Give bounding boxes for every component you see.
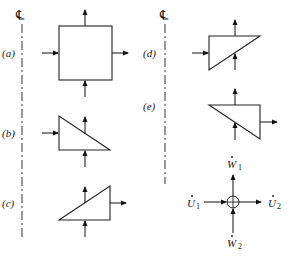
- panel-c: (c): [2, 186, 126, 237]
- centerline-symbol-right: ℄: [159, 7, 169, 22]
- svg-text:U: U: [268, 197, 277, 209]
- panel-d-label: (d): [143, 47, 156, 60]
- panel-b: (b): [2, 116, 110, 167]
- u1-label: U 1: [187, 195, 200, 211]
- square-cell: [59, 26, 112, 80]
- svg-text:2: 2: [238, 242, 242, 251]
- left-centerline: ℄: [15, 7, 25, 238]
- panel-c-label: (c): [2, 197, 15, 210]
- panel-e-label: (e): [143, 100, 156, 113]
- panel-d: (d): [143, 20, 260, 70]
- panel-a: (a): [2, 10, 128, 97]
- svg-text:1: 1: [238, 163, 242, 172]
- w1-label: W 1: [227, 156, 242, 172]
- right-centerline: ℄: [159, 7, 169, 184]
- svg-text:W: W: [227, 237, 237, 249]
- control-volume-diagram: ℄ ℄ (a) (b) (c) (d) (: [0, 0, 295, 260]
- svg-text:1: 1: [196, 202, 200, 211]
- svg-text:W: W: [227, 158, 237, 170]
- svg-text:U: U: [187, 197, 196, 209]
- flux-legend: W 1 W 2 U 1 U 2: [187, 156, 281, 251]
- w2-label: W 2: [227, 235, 242, 251]
- panel-b-label: (b): [2, 127, 15, 140]
- panel-a-label: (a): [2, 47, 15, 60]
- centerline-symbol-left: ℄: [15, 7, 25, 22]
- panel-e: (e): [143, 89, 277, 140]
- svg-text:2: 2: [277, 202, 281, 211]
- u2-label: U 2: [268, 195, 281, 211]
